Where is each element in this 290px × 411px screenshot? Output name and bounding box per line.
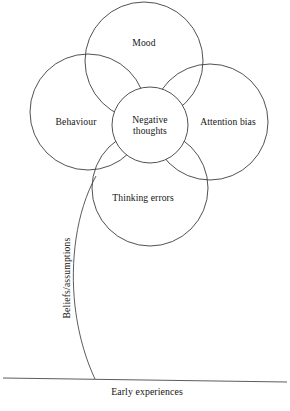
stem-curve <box>73 176 96 379</box>
diagram-canvas <box>0 0 290 411</box>
label-early-experiences: Early experiences <box>111 386 183 397</box>
baseline-rule <box>3 378 287 382</box>
circle-negative-thoughts <box>112 87 188 163</box>
label-beliefs-assumptions: Beliefs/assumptions <box>61 237 72 318</box>
formulation-diagram: Mood Behaviour Attention bias Thinking e… <box>0 0 290 411</box>
